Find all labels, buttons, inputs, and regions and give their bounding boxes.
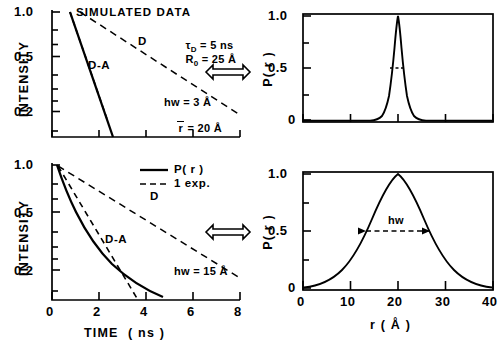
tl-label-donor: D <box>138 35 147 47</box>
top-right-yticks <box>303 16 311 120</box>
tl-label-donor-acceptor: D-A <box>88 59 110 71</box>
bl-xtick-5: 8 <box>234 304 242 319</box>
bl-ytick-1: 1.0 <box>14 157 34 172</box>
bottom-right-xticks <box>303 281 493 290</box>
bottom-left-yticks <box>52 165 60 291</box>
br-xtick-4: 30 <box>435 294 450 309</box>
figure-canvas <box>0 0 503 350</box>
bl-xtick-4: 6 <box>187 304 195 319</box>
bl-ylabel: INTENSITY <box>17 178 31 298</box>
bottom-left-xticks <box>52 292 240 300</box>
bl-label-donor: D <box>150 190 159 202</box>
tl-ylabel: INTENSITY <box>17 19 31 139</box>
br-anno-hw: hw <box>388 214 404 226</box>
curve-donor-acceptor-bottom <box>57 165 163 297</box>
br-ytick-1: 1.0 <box>268 166 288 181</box>
bl-xtick-2: 2 <box>93 304 101 319</box>
br-ylabel: P( r ) <box>261 182 275 282</box>
tl-ytick-1: 1.0 <box>14 4 34 19</box>
r0-symbol: R <box>185 53 193 65</box>
curve-donor-bottom <box>58 166 240 278</box>
br-xtick-3: 20 <box>387 294 402 309</box>
bottom-right-axes <box>303 172 493 290</box>
bl-xtick-1: 0 <box>46 304 54 319</box>
r0-value: = 25 Å <box>198 53 236 65</box>
curve-distribution-broad <box>304 174 492 288</box>
figure-title: SIMULATED DATA <box>76 6 191 18</box>
bl-anno-hw: hw = 15 Å <box>174 265 228 277</box>
bl-label-donor-acceptor: D-A <box>105 233 127 245</box>
connector-arrow-bottom <box>206 225 250 239</box>
bl-xtick-3: 4 <box>140 304 148 319</box>
tl-anno-hw: hw = 3 Å <box>164 96 211 108</box>
rbar-value: = 20 Å <box>184 122 222 134</box>
br-xtick-5: 40 <box>482 294 497 309</box>
tl-anno-r0: R0 = 25 Å <box>172 41 236 80</box>
legend-label-pr: P( r ) <box>174 163 204 175</box>
tr-ylabel: P( r ) <box>261 19 275 119</box>
tl-anno-rbar: r = 20 Å <box>164 110 222 146</box>
figure-root: 1.0 0.5 0.2 INTENSITY SIMULATED DATA D D… <box>0 0 503 350</box>
br-xtick-1: 0 <box>297 294 305 309</box>
br-xlabel: r ( Å ) <box>370 318 411 332</box>
br-xtick-2: 10 <box>340 294 355 309</box>
top-left-yticks <box>52 12 60 131</box>
tr-ytick-3: 0 <box>288 112 296 127</box>
bl-xlabel: TIME ( ns ) <box>84 326 165 340</box>
legend-label-1exp: 1 exp. <box>174 177 210 189</box>
bottom-right-yticks <box>303 174 311 288</box>
br-ytick-3: 0 <box>288 280 296 295</box>
